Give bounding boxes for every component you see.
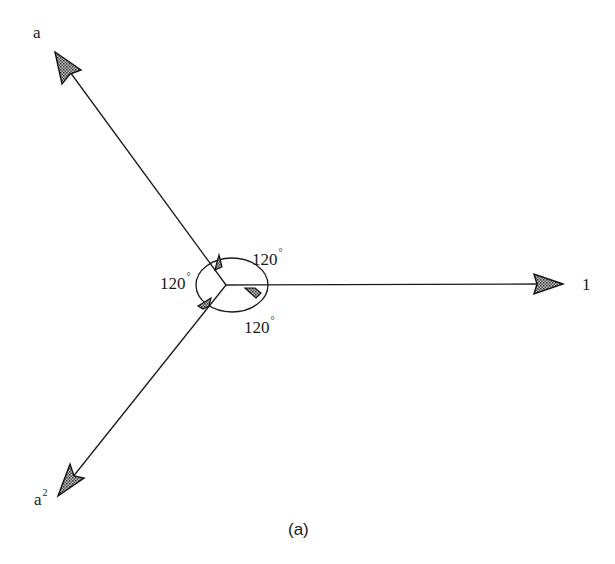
angle-label-left: 120°: [160, 272, 191, 292]
label-1: 1: [582, 276, 591, 293]
figure-caption: (a): [288, 521, 309, 538]
circle-arrow-lower-left-icon: [198, 298, 211, 309]
circle-arrow-right-icon: [245, 288, 261, 298]
angle-label-lower-right: 120°: [244, 316, 275, 336]
angle-label-upper-right: 120°: [252, 248, 283, 268]
vector-a2: [58, 285, 226, 496]
arrowhead-a-icon: [55, 52, 81, 84]
circle-arrow-upper-icon: [215, 255, 222, 270]
label-a: a: [33, 24, 41, 41]
label-a2: a2: [34, 488, 48, 508]
arrowhead-1-icon: [534, 274, 563, 294]
phasor-diagram: [0, 0, 615, 564]
vector-a: [55, 52, 226, 285]
vector-1: [226, 274, 563, 294]
